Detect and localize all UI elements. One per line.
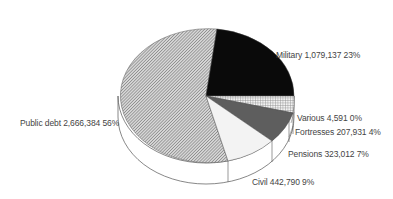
label-civil: Civil 442,790 9% xyxy=(252,177,314,187)
pie-chart xyxy=(0,0,393,199)
label-pensions: Pensions 323,012 7% xyxy=(288,149,369,159)
label-various: Various 4,591 0% xyxy=(297,113,362,123)
label-public-debt: Public debt 2,666,384 56% xyxy=(20,118,119,128)
label-military: Military 1,079,137 23% xyxy=(276,50,360,60)
label-fortresses: Fortresses 207,931 4% xyxy=(295,127,381,137)
slice-military xyxy=(206,29,294,96)
